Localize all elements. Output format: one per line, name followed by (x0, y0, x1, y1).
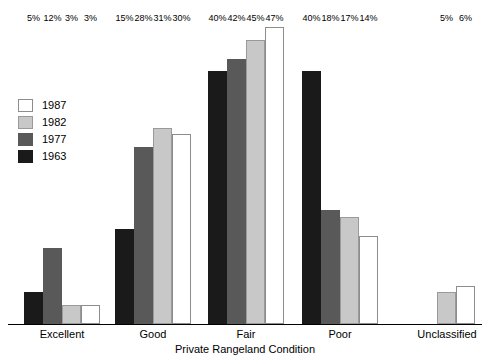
bar-value-good-1987: 30% (172, 13, 190, 23)
bar-wrap-excellent-1977: 12% (43, 24, 62, 324)
bar-excellent-1982 (62, 305, 81, 324)
bar-wrap-unclassified-1982: 5% (437, 24, 456, 324)
bar-wrap-excellent-1963: 5% (24, 24, 43, 324)
bar-unclassified-1982 (437, 292, 456, 324)
group-label-good: Good (105, 328, 201, 341)
bar-value-excellent-1977: 12% (43, 13, 61, 23)
bar-wrap-fair-1987: 47% (265, 24, 284, 324)
bar-wrap-good-1977: 28% (134, 24, 153, 324)
bar-value-unclassified-1987: 6% (459, 13, 472, 23)
bar-chart: 1987 1982 1977 1963 5% 12% (0, 0, 490, 361)
bar-excellent-1977 (43, 248, 62, 324)
bar-value-good-1977: 28% (134, 13, 152, 23)
bar-value-fair-1963: 40% (208, 13, 226, 23)
bar-value-fair-1977: 42% (227, 13, 245, 23)
plot-area: 1987 1982 1977 1963 5% 12% (0, 0, 490, 361)
bar-wrap-excellent-1982: 3% (62, 24, 81, 324)
bar-poor-1982 (340, 217, 359, 324)
x-axis-title: Private Rangeland Condition (0, 343, 490, 356)
bar-good-1977 (134, 147, 153, 324)
bar-excellent-1987 (81, 305, 100, 324)
bar-fair-1987 (265, 27, 284, 324)
bar-value-fair-1987: 47% (265, 13, 283, 23)
bar-wrap-poor-1987: 14% (359, 24, 378, 324)
bar-wrap-poor-1982: 17% (340, 24, 359, 324)
bar-value-excellent-1987: 3% (84, 13, 97, 23)
bar-poor-1977 (321, 210, 340, 324)
bar-wrap-excellent-1987: 3% (81, 24, 100, 324)
x-axis-line (8, 324, 482, 325)
group-label-poor: Poor (292, 328, 388, 341)
bar-value-good-1982: 31% (153, 13, 171, 23)
bar-unclassified-1987 (456, 286, 475, 324)
bar-wrap-fair-1977: 42% (227, 24, 246, 324)
bar-value-poor-1963: 40% (302, 13, 320, 23)
bar-wrap-fair-1982: 45% (246, 24, 265, 324)
group-label-excellent: Excellent (14, 328, 110, 341)
bar-poor-1963 (302, 71, 321, 324)
bar-group-unclassified: 5% 6% (437, 24, 475, 324)
bar-wrap-good-1982: 31% (153, 24, 172, 324)
bar-wrap-unclassified-1987: 6% (456, 24, 475, 324)
bar-value-poor-1977: 18% (321, 13, 339, 23)
bar-group-good: 15% 28% 31% 30% (115, 24, 191, 324)
bar-group-poor: 40% 18% 17% 14% (302, 24, 378, 324)
group-label-unclassified: Unclassified (399, 328, 490, 341)
bar-wrap-fair-1963: 40% (208, 24, 227, 324)
bar-wrap-poor-1963: 40% (302, 24, 321, 324)
bar-value-good-1963: 15% (115, 13, 133, 23)
bar-value-fair-1982: 45% (246, 13, 264, 23)
bar-value-poor-1982: 17% (340, 13, 358, 23)
group-label-fair: Fair (198, 328, 294, 341)
bar-fair-1982 (246, 40, 265, 324)
bar-wrap-good-1987: 30% (172, 24, 191, 324)
bar-value-unclassified-1982: 5% (440, 13, 453, 23)
bar-wrap-good-1963: 15% (115, 24, 134, 324)
bar-value-excellent-1963: 5% (27, 13, 40, 23)
bar-fair-1977 (227, 59, 246, 324)
bar-excellent-1963 (24, 292, 43, 324)
bar-group-excellent: 5% 12% 3% 3% (24, 24, 100, 324)
bar-good-1963 (115, 229, 134, 324)
bar-poor-1987 (359, 236, 378, 324)
bar-good-1982 (153, 128, 172, 324)
bar-good-1987 (172, 134, 191, 324)
bar-value-poor-1987: 14% (359, 13, 377, 23)
bar-group-fair: 40% 42% 45% 47% (208, 24, 284, 324)
bar-wrap-poor-1977: 18% (321, 24, 340, 324)
bar-value-excellent-1982: 3% (65, 13, 78, 23)
bar-fair-1963 (208, 71, 227, 324)
